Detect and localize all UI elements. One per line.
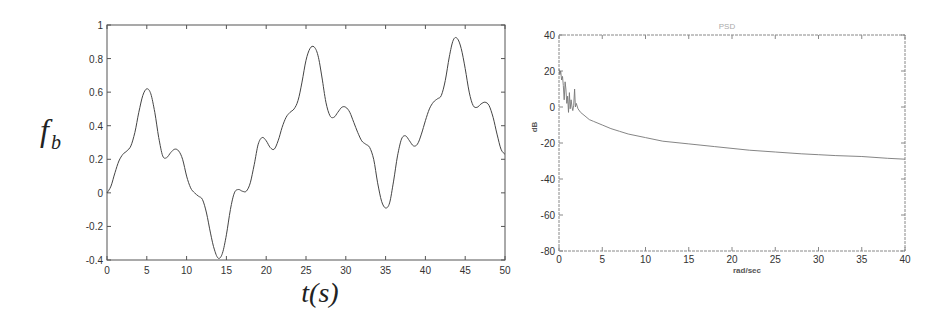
x-tick-label: 0 — [104, 265, 110, 276]
x-tick-label: 15 — [683, 254, 695, 265]
x-tick-label: 5 — [599, 254, 605, 265]
x-tick-label: 0 — [556, 254, 562, 265]
y-tick-label: 0 — [549, 102, 555, 113]
y-tick-label: 0.6 — [89, 87, 103, 98]
y-tick-label: 1 — [97, 20, 103, 31]
x-tick-labels: 05101520253035404550 — [104, 265, 511, 276]
y-tick-label: -0.2 — [86, 221, 104, 232]
x-tick-label: 25 — [770, 254, 782, 265]
x-tick-label: 30 — [340, 265, 352, 276]
y-tick-label: -40 — [541, 174, 556, 185]
x-tick-label: 35 — [380, 265, 392, 276]
y-tick-label: 0 — [97, 188, 103, 199]
x-tick-label: 30 — [813, 254, 825, 265]
x-tick-label: 15 — [221, 265, 233, 276]
chart-title: PSD — [719, 22, 736, 31]
y-axis-label-subscript: b — [51, 131, 61, 153]
x-tick-label: 40 — [420, 265, 432, 276]
y-tick-label: 0.8 — [89, 54, 103, 65]
x-tick-labels: 0510152025303540 — [556, 254, 911, 265]
y-tick-label: -60 — [541, 210, 556, 221]
x-axis-label: t(s) — [301, 277, 338, 308]
y-axis-label: fb — [40, 112, 61, 153]
x-tick-label: 45 — [460, 265, 472, 276]
x-axis-label: rad/sec — [733, 266, 762, 275]
y-tick-label: 0.2 — [89, 154, 103, 165]
figure: 05101520253035404550 -0.4-0.200.20.40.60… — [0, 0, 948, 315]
x-tick-label: 35 — [856, 254, 868, 265]
x-tick-label: 20 — [726, 254, 738, 265]
x-tick-label: 25 — [300, 265, 312, 276]
y-tick-labels: -80-60-40-2002040 — [541, 30, 556, 257]
x-tick-label: 50 — [499, 265, 511, 276]
x-tick-label: 10 — [181, 265, 193, 276]
plot-area — [559, 35, 905, 251]
y-tick-label: 0.4 — [89, 121, 103, 132]
y-axis-label: dB — [530, 121, 539, 132]
time-series-chart: 05101520253035404550 -0.4-0.200.20.40.60… — [40, 20, 511, 308]
y-tick-labels: -0.4-0.200.20.40.60.81 — [86, 20, 104, 266]
psd-chart: 0510152025303540 -80-60-40-2002040 PSD r… — [530, 22, 911, 275]
y-tick-label: 40 — [544, 30, 556, 41]
y-tick-label: -20 — [541, 138, 556, 149]
y-tick-label: -80 — [541, 246, 556, 257]
x-tick-label: 20 — [261, 265, 273, 276]
y-tick-label: -0.4 — [86, 255, 104, 266]
y-tick-label: 20 — [544, 66, 556, 77]
x-tick-label: 40 — [899, 254, 911, 265]
x-tick-label: 5 — [144, 265, 150, 276]
x-tick-label: 10 — [640, 254, 652, 265]
